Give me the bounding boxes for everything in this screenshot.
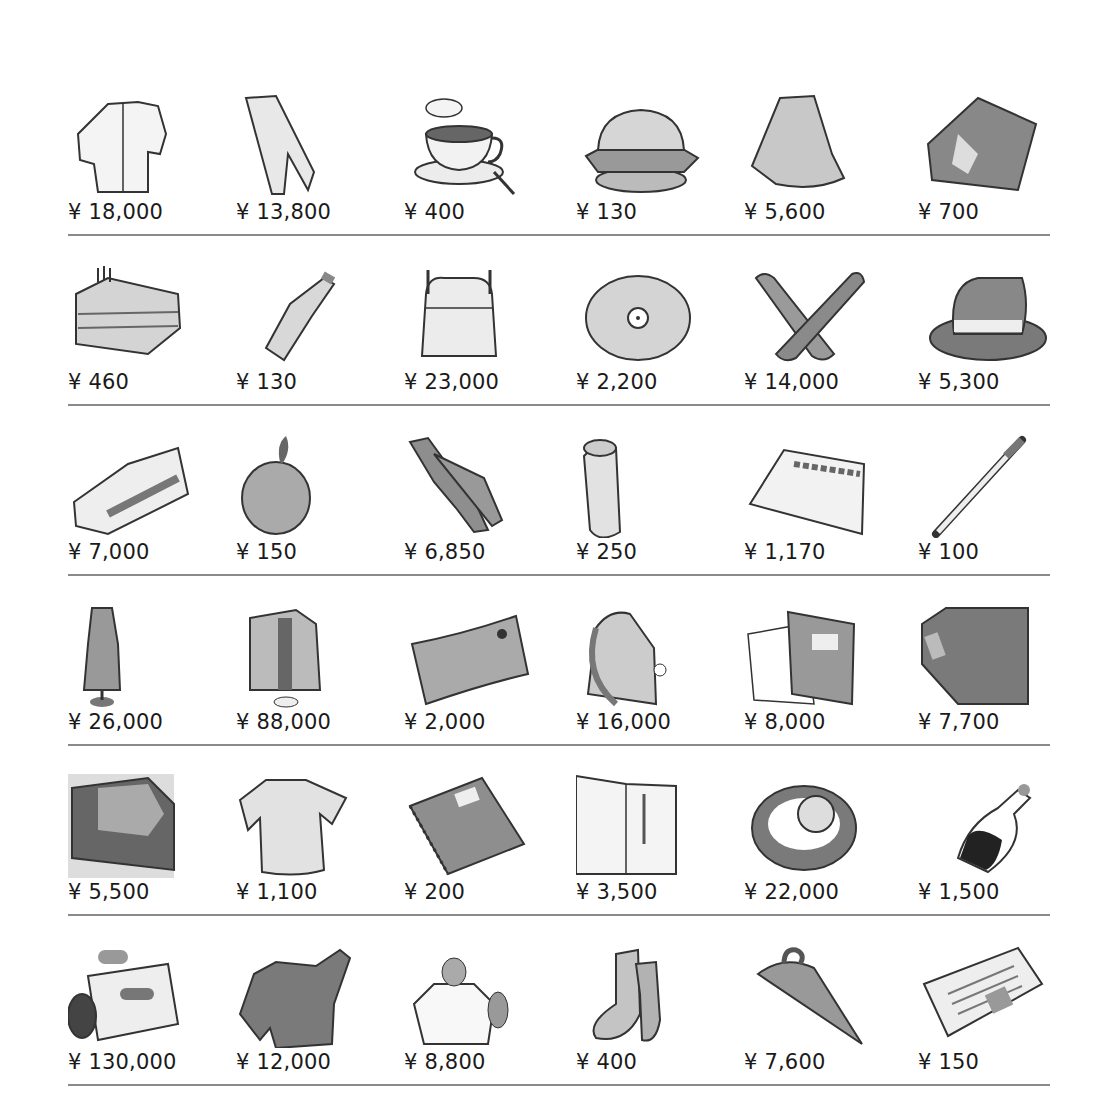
apple-icon xyxy=(236,434,366,538)
price-row-1: ¥ 18,000 ¥ 13,800 ¥ 400 ¥ 130 ¥ 5,600 xyxy=(68,92,1050,236)
price-label: ¥ 14,000 xyxy=(744,370,839,394)
newspaper-icon xyxy=(918,944,1048,1048)
backpack-icon xyxy=(404,264,534,368)
price-label: ¥ 400 xyxy=(576,1050,637,1074)
item-dress: ¥ 26,000 xyxy=(68,602,232,744)
item-suit: ¥ 88,000 xyxy=(236,602,400,744)
item-wine-bottle: ¥ 1,500 xyxy=(918,772,1082,914)
cake-icon xyxy=(68,264,198,368)
ticket-icon xyxy=(404,604,534,708)
price-label: ¥ 12,000 xyxy=(236,1050,331,1074)
item-watch: ¥ 22,000 xyxy=(744,772,908,914)
item-magazine: ¥ 3,500 xyxy=(576,772,740,914)
price-label: ¥ 200 xyxy=(404,880,465,904)
book-icon xyxy=(918,94,1048,198)
pants-icon xyxy=(236,94,366,198)
dress-icon xyxy=(68,604,198,708)
item-cola-bottle: ¥ 130 xyxy=(236,262,400,404)
price-row-2: ¥ 460 ¥ 130 ¥ 23,000 ¥ 2,200 ¥ 14,000 xyxy=(68,262,1050,406)
price-label: ¥ 5,600 xyxy=(744,200,826,224)
video-camera-icon xyxy=(68,944,198,1048)
hat-icon xyxy=(918,264,1048,368)
price-label: ¥ 13,800 xyxy=(236,200,331,224)
price-label: ¥ 130 xyxy=(576,200,637,224)
coffee-cup-icon xyxy=(404,94,534,198)
price-row-3: ¥ 7,000 ¥ 150 ¥ 6,850 ¥ 250 ¥ 1,170 xyxy=(68,432,1050,576)
item-sweater: ¥ 12,000 xyxy=(236,942,400,1084)
bag-icon xyxy=(576,604,706,708)
price-row-6: ¥ 130,000 ¥ 12,000 ¥ 8,800 ¥ 400 ¥ 7,600 xyxy=(68,942,1050,1086)
item-video-camera: ¥ 130,000 xyxy=(68,942,232,1084)
price-label: ¥ 1,170 xyxy=(744,540,826,564)
socks-icon xyxy=(576,944,706,1048)
price-label: ¥ 3,500 xyxy=(576,880,658,904)
price-label: ¥ 18,000 xyxy=(68,200,163,224)
watch-icon xyxy=(744,774,874,878)
stationery-icon xyxy=(744,604,874,708)
price-label: ¥ 7,000 xyxy=(68,540,150,564)
price-label: ¥ 150 xyxy=(918,1050,979,1074)
price-label: ¥ 7,600 xyxy=(744,1050,826,1074)
bottle-icon xyxy=(236,264,366,368)
handkerchief-icon xyxy=(744,434,874,538)
price-label: ¥ 130,000 xyxy=(68,1050,177,1074)
item-skirt: ¥ 5,600 xyxy=(744,92,908,234)
item-handkerchief: ¥ 1,170 xyxy=(744,432,908,574)
price-label: ¥ 23,000 xyxy=(404,370,499,394)
item-backpack: ¥ 23,000 xyxy=(404,262,568,404)
price-label: ¥ 88,000 xyxy=(236,710,331,734)
price-label: ¥ 26,000 xyxy=(68,710,163,734)
item-cd: ¥ 2,200 xyxy=(576,262,740,404)
item-shirt: ¥ 18,000 xyxy=(68,92,232,234)
item-coffee: ¥ 400 xyxy=(404,92,568,234)
shoes-icon xyxy=(744,264,874,368)
price-label: ¥ 5,500 xyxy=(68,880,150,904)
price-label: ¥ 1,500 xyxy=(918,880,1000,904)
price-row-4: ¥ 26,000 ¥ 88,000 ¥ 2,000 ¥ 16,000 ¥ 8,0… xyxy=(68,602,1050,746)
price-label: ¥ 16,000 xyxy=(576,710,671,734)
price-label: ¥ 100 xyxy=(918,540,979,564)
cd-icon xyxy=(576,264,706,368)
shirt-icon xyxy=(68,94,198,198)
price-label: ¥ 250 xyxy=(576,540,637,564)
jeans-icon xyxy=(404,434,534,538)
price-row-5: ¥ 5,500 ¥ 1,100 ¥ 200 ¥ 3,500 ¥ 22,000 xyxy=(68,772,1050,916)
item-video-tape: ¥ 5,500 xyxy=(68,772,232,914)
perfume-icon xyxy=(404,944,534,1048)
notebook-icon xyxy=(404,774,534,878)
price-label: ¥ 700 xyxy=(918,200,979,224)
item-newspaper: ¥ 150 xyxy=(918,942,1082,1084)
price-label: ¥ 400 xyxy=(404,200,465,224)
magazine-icon xyxy=(576,774,706,878)
price-label: ¥ 22,000 xyxy=(744,880,839,904)
item-pen: ¥ 100 xyxy=(918,432,1082,574)
dictionary-icon xyxy=(918,604,1048,708)
item-shoes: ¥ 14,000 xyxy=(744,262,908,404)
price-sheet: ¥ 18,000 ¥ 13,800 ¥ 400 ¥ 130 ¥ 5,600 xyxy=(68,92,1050,1107)
item-socks: ¥ 400 xyxy=(576,942,740,1084)
item-apple: ¥ 150 xyxy=(236,432,400,574)
price-label: ¥ 7,700 xyxy=(918,710,1000,734)
item-jeans: ¥ 6,850 xyxy=(404,432,568,574)
soda-can-icon xyxy=(576,434,706,538)
item-soda-can: ¥ 250 xyxy=(576,432,740,574)
price-label: ¥ 6,850 xyxy=(404,540,486,564)
skirt-icon xyxy=(744,94,874,198)
video-tape-icon xyxy=(68,774,198,878)
umbrella-icon xyxy=(744,944,874,1048)
price-label: ¥ 130 xyxy=(236,370,297,394)
item-bag: ¥ 16,000 xyxy=(576,602,740,744)
pen-icon xyxy=(918,434,1048,538)
item-cake: ¥ 460 xyxy=(68,262,232,404)
sneakers-icon xyxy=(68,434,198,538)
item-hamburger: ¥ 130 xyxy=(576,92,740,234)
item-dictionary: ¥ 7,700 xyxy=(918,602,1082,744)
price-label: ¥ 5,300 xyxy=(918,370,1000,394)
t-shirt-icon xyxy=(236,774,366,878)
item-umbrella: ¥ 7,600 xyxy=(744,942,908,1084)
suit-jacket-icon xyxy=(236,604,366,708)
price-label: ¥ 150 xyxy=(236,540,297,564)
item-perfume: ¥ 8,800 xyxy=(404,942,568,1084)
item-pants: ¥ 13,800 xyxy=(236,92,400,234)
hamburger-icon xyxy=(576,94,706,198)
